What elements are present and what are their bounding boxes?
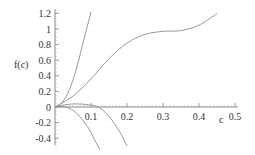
x-tick-label: 0.2: [121, 111, 134, 122]
x-tick-label: 0.5: [229, 111, 242, 122]
tick-labels: 1.210.80.60.40.20-0.2-0.40.10.20.30.40.5: [35, 8, 241, 144]
y-tick-label: 0.4: [39, 70, 52, 81]
plot-curves: [55, 12, 217, 150]
y-tick-label: 0.2: [39, 86, 52, 97]
ticks: [55, 13, 235, 146]
y-tick-label: -0.4: [35, 133, 51, 144]
chart-canvas: 1.210.80.60.40.20-0.2-0.40.10.20.30.40.5…: [0, 0, 255, 155]
axes: [55, 9, 238, 145]
x-tick-label: 0.4: [193, 111, 206, 122]
x-tick-label: 0.3: [157, 111, 170, 122]
y-tick-label: 1: [46, 24, 51, 35]
x-tick-label: 0.1: [85, 111, 98, 122]
y-tick-label: 0.8: [39, 39, 52, 50]
curve-steep-rise: [55, 12, 91, 107]
curve-s-shape: [55, 13, 217, 107]
y-tick-label: 0.6: [39, 55, 52, 66]
y-tick-label: 0: [46, 102, 51, 113]
y-axis-label: f(c): [14, 59, 28, 71]
y-tick-label: 1.2: [39, 8, 52, 19]
x-axis-label: c: [219, 114, 224, 125]
y-tick-label: -0.2: [35, 117, 51, 128]
